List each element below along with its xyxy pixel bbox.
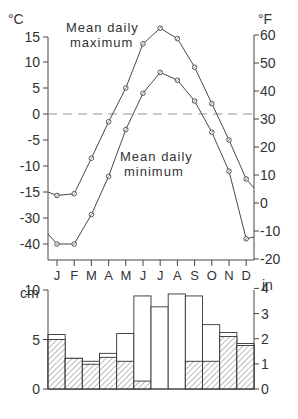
month-label: M [86, 268, 97, 283]
right-tick-label: 0 [260, 195, 268, 211]
in-tick-label: 3 [261, 306, 269, 322]
month-label: D [242, 268, 251, 283]
left-tick-label: -10 [20, 158, 40, 174]
month-label: A [104, 268, 113, 283]
min-annotation-line2: minimum [124, 164, 184, 179]
left-tick-label: -30 [20, 210, 40, 226]
left-tick-label: -5 [28, 132, 41, 148]
fahrenheit-unit-label: °F [258, 11, 272, 27]
precip-bar [151, 307, 168, 389]
min-annotation-line1: Mean daily [120, 149, 193, 164]
month-label: M [120, 268, 131, 283]
month-label: O [207, 268, 217, 283]
snow-bar [237, 345, 254, 389]
left-tick-label: -15 [20, 184, 40, 200]
left-temp-ticks: 151050-5-10-15-30-40 [20, 29, 48, 252]
right-tick-label: 60 [260, 27, 276, 43]
precipitation-panel: cm in 1050 43210 [20, 277, 273, 397]
snow-bar [220, 337, 237, 389]
right-tick-label: 40 [260, 83, 276, 99]
month-label: J [54, 268, 61, 283]
month-label: J [157, 268, 164, 283]
right-temp-ticks: 6050403020100-10-20 [254, 27, 280, 267]
month-label: J [140, 268, 147, 283]
left-tick-label: -40 [20, 236, 40, 252]
max-annotation-line1: Mean daily [66, 20, 139, 35]
in-tick-label: 1 [261, 356, 269, 372]
right-tick-label: -20 [260, 251, 280, 267]
month-ticks: JFMAMJJASOND [54, 260, 251, 283]
snow-bar [185, 361, 202, 389]
snow-bar [48, 340, 65, 390]
precip-bar [134, 296, 151, 389]
in-tick-label: 0 [261, 381, 269, 397]
right-tick-label: 50 [260, 55, 276, 71]
month-label: F [70, 268, 78, 283]
snow-bar [117, 361, 134, 389]
precipitation-bars [48, 294, 254, 389]
right-tick-label: 20 [260, 139, 276, 155]
temperature-panel: °C °F 151050-5-10-15-30-40 6050403020100… [8, 11, 280, 283]
left-tick-label: 10 [24, 54, 40, 70]
max-annotation-line2: maximum [70, 35, 133, 50]
snow-bar [203, 361, 220, 389]
snow-bar [134, 381, 151, 389]
cm-tick-label: 10 [24, 282, 40, 298]
in-tick-label: 4 [261, 280, 269, 296]
left-tick-label: 15 [24, 29, 40, 45]
left-tick-label: 5 [32, 80, 40, 96]
snow-bar [100, 357, 117, 389]
snow-bar [65, 358, 82, 389]
left-tick-label: 0 [32, 106, 40, 122]
month-label: N [224, 268, 233, 283]
right-tick-label: -10 [260, 223, 280, 239]
right-tick-label: 10 [260, 167, 276, 183]
celsius-unit-label: °C [8, 11, 24, 27]
in-tick-label: 2 [261, 331, 269, 347]
month-label: A [173, 268, 182, 283]
snow-bar [82, 364, 99, 389]
cm-tick-label: 0 [32, 381, 40, 397]
cm-tick-label: 5 [32, 332, 40, 348]
precip-bar [168, 294, 185, 389]
in-ticks: 43210 [254, 280, 269, 397]
month-label: S [190, 268, 199, 283]
right-tick-label: 30 [260, 111, 276, 127]
climate-chart: °C °F 151050-5-10-15-30-40 6050403020100… [0, 0, 298, 419]
